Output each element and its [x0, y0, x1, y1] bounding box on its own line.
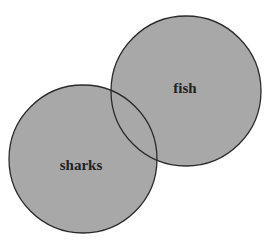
sharks-label: sharks: [60, 157, 103, 173]
fish-label: fish: [173, 80, 197, 96]
venn-diagram: fish sharks: [0, 0, 272, 245]
